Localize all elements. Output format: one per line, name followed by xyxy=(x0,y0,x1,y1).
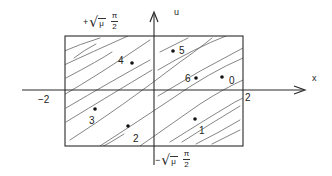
point-4 xyxy=(130,61,134,65)
radical-icon: √ xyxy=(89,15,98,29)
point-label-0: 0 xyxy=(229,76,235,86)
point-2 xyxy=(126,124,130,128)
lower-bound-fraction: π 2 xyxy=(183,150,191,169)
point-label-5: 5 xyxy=(179,46,185,56)
point-label-4: 4 xyxy=(118,56,124,66)
point-0 xyxy=(220,75,224,79)
hatch-lines xyxy=(62,36,243,150)
x-tick-2: 2 xyxy=(245,93,251,103)
x-tick-minus-2: −2 xyxy=(38,95,49,105)
point-1 xyxy=(193,117,197,121)
lower-bound-denominator: 2 xyxy=(184,160,188,169)
point-label-2: 2 xyxy=(133,134,139,144)
radical-icon: √ xyxy=(161,153,170,167)
u-axis-label: u xyxy=(174,7,179,17)
lower-bound-radicand: μ xyxy=(170,156,178,167)
point-label-3: 3 xyxy=(89,116,95,126)
point-3 xyxy=(93,107,97,111)
upper-bound-radicand: μ xyxy=(98,18,106,29)
point-label-6: 6 xyxy=(185,74,191,84)
x-axis-label: x xyxy=(312,73,317,83)
upper-bound-numerator: π xyxy=(111,12,119,22)
lower-bound-numerator: π xyxy=(183,150,191,160)
point-5 xyxy=(171,49,175,53)
sqrt-symbol: √ μ xyxy=(161,153,178,167)
u-axis xyxy=(150,12,158,165)
upper-bound-label: + √ μ π 2 xyxy=(83,12,118,31)
lower-bound-sign: − xyxy=(155,155,160,165)
lower-bound-label: − √ μ π 2 xyxy=(155,150,190,169)
point-label-1: 1 xyxy=(199,126,205,136)
upper-bound-sign: + xyxy=(83,17,88,27)
upper-bound-fraction: π 2 xyxy=(111,12,119,31)
upper-bound-denominator: 2 xyxy=(112,22,116,31)
sqrt-symbol: √ μ xyxy=(89,15,106,29)
trajectory-points xyxy=(93,49,224,128)
point-6 xyxy=(194,76,198,80)
